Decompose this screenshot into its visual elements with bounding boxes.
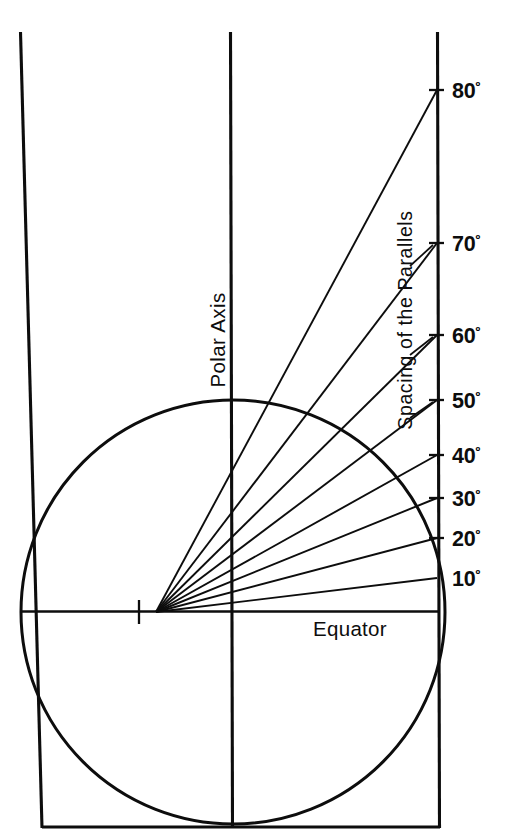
degree-label-50: 50º	[452, 389, 481, 414]
degree-value-70: 70	[452, 232, 476, 256]
projection-ray-20	[156, 538, 437, 612]
degree-label-60: 60º	[452, 324, 481, 349]
degree-label-30: 30º	[452, 487, 481, 512]
degree-unit-80: º	[476, 79, 481, 94]
degree-value-60: 60	[452, 324, 476, 348]
equator-group: Equator	[21, 612, 439, 641]
degree-unit-30: º	[476, 487, 481, 502]
degree-value-80: 80	[452, 79, 476, 103]
degree-unit-10: º	[476, 567, 481, 582]
degree-unit-50: º	[476, 389, 481, 404]
degree-value-40: 40	[452, 444, 476, 468]
degree-value-30: 30	[452, 487, 476, 511]
polar-axis-line	[231, 32, 233, 827]
degree-label-20: 20º	[452, 527, 481, 552]
projection-ray-50	[156, 400, 437, 612]
degree-value-50: 50	[452, 389, 476, 413]
frame-right-edge-projection-plane	[438, 32, 440, 828]
degree-value-20: 20	[452, 527, 476, 551]
degree-unit-40: º	[476, 444, 481, 459]
polar-axis-group: Polar Axis	[206, 32, 233, 827]
projection-diagram-canvas: Polar Axis Equator	[0, 0, 514, 840]
frame-left-edge	[21, 32, 43, 828]
degree-unit-20: º	[476, 527, 481, 542]
degree-value-10: 10	[452, 567, 476, 591]
degree-label-70: 70º	[452, 232, 481, 257]
degree-unit-60: º	[476, 324, 481, 339]
spacing-of-the-parallels-label: Spacing of the Parallels	[394, 210, 416, 429]
spacing-caption-group: Spacing of the Parallels	[394, 210, 416, 429]
degree-label-80: 80º	[452, 79, 481, 104]
equator-label: Equator	[313, 617, 387, 640]
degree-labels-group: 80º 70º 60º 50º 40º 30º 20º 10º	[452, 79, 481, 592]
degree-label-40: 40º	[452, 444, 481, 469]
degree-label-10: 10º	[452, 567, 481, 592]
polar-axis-label: Polar Axis	[206, 292, 229, 387]
projection-figure: Polar Axis Equator	[0, 0, 514, 840]
degree-unit-70: º	[476, 232, 481, 247]
